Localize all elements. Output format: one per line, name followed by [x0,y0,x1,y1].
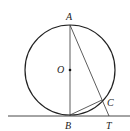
geometry-diagram: A O B C T [0,0,130,131]
label-b: B [65,120,71,131]
label-o: O [57,64,64,75]
label-t: T [106,120,113,131]
label-c: C [107,97,114,108]
label-a: A [65,11,73,22]
secant-at [70,25,109,116]
center-point-o [69,69,72,72]
chord-bc [70,100,102,115]
